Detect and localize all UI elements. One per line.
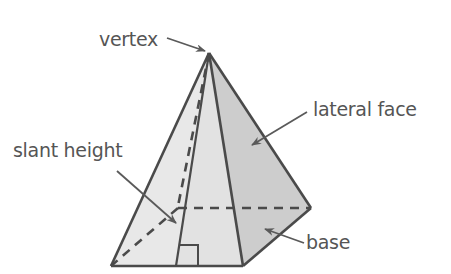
slant-height-label: slant height xyxy=(13,141,122,160)
lateral-face-label: lateral face xyxy=(313,100,417,119)
vertex-label: vertex xyxy=(99,30,158,49)
vertex-arrow xyxy=(167,38,205,51)
base-label: base xyxy=(306,233,350,252)
pyramid-diagram xyxy=(0,0,451,274)
lateral-face-arrow xyxy=(252,112,307,145)
